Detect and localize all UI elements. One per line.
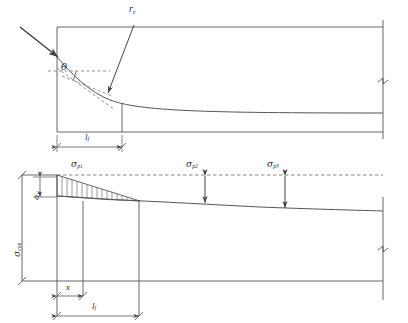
radius-leader-arrow (108, 25, 134, 93)
label-sigma-p2: σp2 (186, 160, 198, 170)
label-sigma-l1: σl1 (33, 191, 42, 200)
tangent-line-dashed (57, 68, 115, 110)
load-arrow (20, 27, 58, 57)
label-radius-rc: rc (129, 4, 136, 15)
label-x-distance: x (66, 283, 70, 292)
break-symbol-upper (378, 78, 388, 84)
break-symbol-lower (378, 246, 388, 252)
stress-curve (57, 196, 383, 211)
label-sigma-con: σcon (13, 243, 23, 257)
lower-diagram-group (18, 171, 388, 320)
label-lf-lower: lf (92, 302, 96, 312)
label-angle-theta: θ (61, 62, 67, 72)
label-sigma-p3: σp3 (267, 160, 279, 170)
diagram-canvas (0, 0, 408, 323)
label-sigma-p1: σp1 (71, 160, 83, 170)
label-lf-upper: lf (85, 133, 89, 143)
tendon-curve (57, 57, 383, 113)
stress-loss-triangle (57, 175, 140, 201)
figure-root: rc θ lf σp1 σp2 σp3 σl1 σcon x lf (0, 0, 408, 323)
upper-diagram-group (20, 20, 388, 152)
